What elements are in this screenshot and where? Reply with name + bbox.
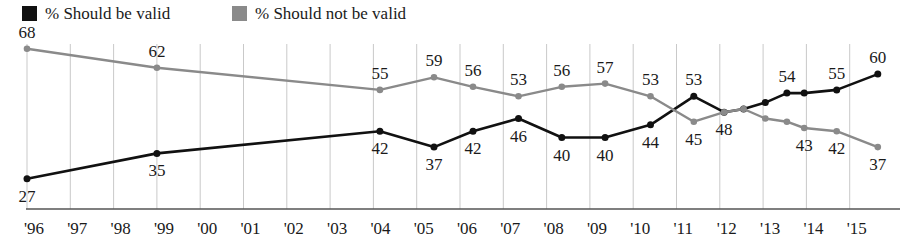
- data-point-label: 55: [828, 65, 845, 82]
- data-point-label: 46: [510, 128, 527, 145]
- data-point-marker: [801, 90, 808, 97]
- data-point-label: 40: [553, 147, 570, 164]
- legend-label-should-be-valid: % Should be valid: [45, 5, 170, 22]
- x-axis-tick-label: '08: [544, 220, 564, 237]
- data-point-marker: [762, 115, 769, 122]
- x-axis-tick-label: '00: [197, 220, 217, 237]
- data-point-label: 56: [553, 62, 570, 79]
- x-axis-tick-label: '98: [111, 220, 131, 237]
- data-point-marker: [24, 45, 31, 52]
- data-point-marker: [431, 74, 438, 81]
- data-point-marker: [602, 80, 609, 87]
- data-point-marker: [783, 90, 790, 97]
- data-point-marker: [874, 71, 881, 78]
- data-point-label: 62: [148, 43, 165, 60]
- data-point-marker: [833, 86, 840, 93]
- data-point-label: 42: [371, 140, 388, 157]
- data-point-marker: [559, 84, 566, 91]
- x-axis-tick-label: '10: [630, 220, 650, 237]
- data-point-label: 48: [716, 121, 733, 138]
- series-should-not-be-valid: [24, 45, 881, 150]
- x-axis-tick-label: '09: [587, 220, 607, 237]
- series-line: [27, 49, 878, 147]
- data-point-label: 53: [510, 71, 527, 88]
- data-point-label: 42: [465, 140, 482, 157]
- data-point-marker: [470, 128, 477, 135]
- data-point-marker: [515, 93, 522, 100]
- data-point-label: 68: [19, 24, 36, 41]
- x-axis-tick-label: '04: [370, 220, 390, 237]
- data-point-marker: [875, 144, 882, 151]
- data-point-label: 57: [597, 59, 614, 76]
- data-point-label: 56: [465, 62, 482, 79]
- x-axis-tick-label: '97: [67, 220, 87, 237]
- data-point-label: 53: [642, 71, 659, 88]
- data-point-label: 35: [148, 162, 165, 179]
- data-point-label: 40: [597, 147, 614, 164]
- data-point-marker: [740, 106, 747, 113]
- x-axis-tick-label: '15: [847, 220, 867, 237]
- data-point-marker: [691, 118, 698, 125]
- data-point-label: 53: [685, 71, 702, 88]
- legend-entry-should-be-valid: % Should be valid: [22, 5, 170, 22]
- data-point-label: 27: [19, 188, 36, 205]
- data-point-marker: [515, 115, 522, 122]
- data-point-marker: [431, 144, 438, 151]
- x-axis-tick-label: '12: [717, 220, 737, 237]
- x-axis-tick-label: '06: [457, 220, 477, 237]
- data-point-marker: [558, 134, 565, 141]
- x-axis-tick-label: '05: [414, 220, 434, 237]
- data-point-marker: [24, 175, 31, 182]
- data-point-label: 37: [426, 156, 443, 173]
- data-point-label: 45: [685, 131, 702, 148]
- legend-swatch-should-be-valid: [22, 6, 37, 21]
- x-axis-tick-label: '03: [327, 220, 347, 237]
- plot-area: 2735423742464040445354556068625559565356…: [0, 32, 911, 214]
- data-point-marker: [470, 84, 477, 91]
- x-axis-tick-label: '01: [241, 220, 261, 237]
- data-point-marker: [801, 125, 808, 132]
- data-point-marker: [602, 134, 609, 141]
- data-point-label: 55: [371, 65, 388, 82]
- data-point-label: 60: [869, 49, 886, 66]
- data-point-marker: [833, 128, 840, 135]
- data-point-label: 59: [426, 52, 443, 69]
- data-point-label: 44: [642, 134, 659, 151]
- x-axis-tick-label: '11: [674, 220, 693, 237]
- x-axis-tick-label: '07: [500, 220, 520, 237]
- legend-swatch-should-not-be-valid: [232, 6, 247, 21]
- chart-legend: % Should be valid % Should not be valid: [0, 0, 911, 32]
- x-axis-tick-label: '99: [154, 220, 174, 237]
- legend-label-should-not-be-valid: % Should not be valid: [255, 5, 406, 22]
- data-point-marker: [377, 87, 384, 94]
- data-point-marker: [721, 109, 728, 116]
- chart-container: % Should be valid % Should not be valid …: [0, 0, 911, 248]
- data-point-label: 42: [828, 140, 845, 157]
- x-axis-tick-label: '96: [24, 220, 44, 237]
- data-point-label: 43: [796, 137, 813, 154]
- data-point-marker: [690, 93, 697, 100]
- x-axis: '96'97'98'99'00'01'02'03'04'05'06'07'08'…: [0, 214, 911, 248]
- data-point-marker: [153, 150, 160, 157]
- data-point-label: 37: [869, 156, 886, 173]
- data-point-marker: [647, 93, 654, 100]
- data-point-marker: [762, 99, 769, 106]
- x-axis-tick-label: '13: [760, 220, 780, 237]
- x-axis-tick-label: '14: [803, 220, 823, 237]
- x-axis-tick-label: '02: [284, 220, 304, 237]
- data-point-marker: [784, 118, 791, 125]
- data-point-label: 54: [778, 68, 795, 85]
- legend-entry-should-not-be-valid: % Should not be valid: [232, 5, 406, 22]
- data-point-marker: [376, 128, 383, 135]
- data-point-marker: [154, 64, 161, 71]
- plot-svg: [0, 32, 911, 214]
- data-point-marker: [647, 121, 654, 128]
